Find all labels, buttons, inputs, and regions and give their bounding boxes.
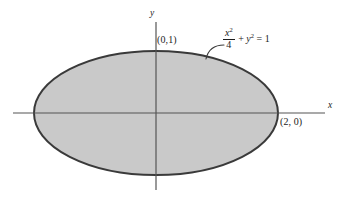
equation-right-hand-side: 1 [265,34,270,44]
x-axis-label: x [328,101,332,111]
equation-second-term-exponent: 2 [251,32,254,39]
equation-plus-sign: + [238,34,244,44]
equation-numerator-exponent: 2 [229,26,232,33]
y-axis-label: y [150,9,154,19]
point-label-right: (2, 0) [280,117,302,127]
equation-label: x2 4 + y2 = 1 [222,28,270,50]
equation-equals-sign: = [257,34,263,44]
equation-denominator: 4 [224,40,233,51]
equation-numerator: x2 [223,28,235,39]
ellipse-figure: x y (0,1) (2, 0) x2 4 + y2 = 1 [0,0,345,198]
equation-second-term: y2 [246,34,254,44]
equation-fraction: x2 4 [223,28,235,50]
point-label-top: (0,1) [157,35,177,45]
figure-canvas [0,0,345,198]
